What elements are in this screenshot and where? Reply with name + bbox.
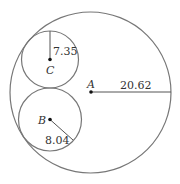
label-a: A bbox=[86, 78, 95, 91]
label-b: B bbox=[37, 114, 46, 127]
circles-diagram: A C B 20.62 7.35 8.04 bbox=[0, 0, 180, 184]
center-c-point bbox=[48, 58, 52, 62]
center-b-point bbox=[48, 118, 52, 122]
radius-c-value: 7.35 bbox=[53, 45, 78, 58]
radius-b-value: 8.04 bbox=[45, 134, 70, 147]
radius-a-value: 20.62 bbox=[120, 79, 152, 92]
label-c: C bbox=[46, 64, 55, 77]
